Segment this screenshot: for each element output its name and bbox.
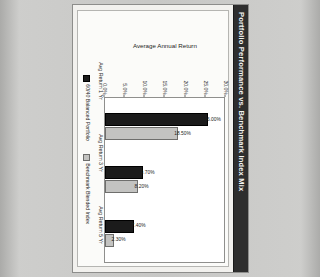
legend-label: Benchmark Blended Index bbox=[84, 163, 89, 224]
category-axis-row: Avg Return 1 YrAvg Return 3 YrAvg Return… bbox=[93, 14, 104, 263]
bar[interactable] bbox=[105, 127, 178, 140]
bar-value-label: 8.20% bbox=[135, 184, 149, 189]
bar-value-label: 9.70% bbox=[140, 170, 154, 175]
y-axis-tick-label: 0.0% bbox=[101, 83, 106, 95]
y-axis-title: Average Annual Return bbox=[104, 14, 186, 78]
bar[interactable] bbox=[105, 166, 143, 179]
bar-group: 9.70%8.20% bbox=[105, 153, 186, 206]
bar-wrapper: 2.30% bbox=[105, 234, 186, 247]
legend-swatch-icon bbox=[83, 75, 90, 82]
bar-wrapper: 7.40% bbox=[105, 220, 186, 233]
legend-item[interactable]: 60/40 Balanced Portfolio bbox=[83, 75, 90, 141]
plot-area: 26.00%18.50%9.70%8.20%7.40%2.30% bbox=[104, 97, 186, 263]
bar-value-label: 2.30% bbox=[111, 238, 125, 243]
legend-label: 60/40 Balanced Portfolio bbox=[84, 84, 89, 141]
category-axis-spacer-ticks bbox=[93, 24, 104, 43]
y-axis-tick-label: 15.0% bbox=[161, 80, 166, 94]
bar-wrapper: 8.20% bbox=[105, 180, 186, 193]
bar-wrapper: 26.00% bbox=[105, 113, 186, 126]
slide: Portfolio Performance vs. Benchmark Inde… bbox=[72, 4, 186, 273]
chart-card: Average Annual Return 30.0%25.0%20.0%15.… bbox=[77, 10, 186, 267]
y-axis-title-label: Average Annual Return bbox=[132, 43, 185, 49]
category-axis-labels: Avg Return 1 YrAvg Return 3 YrAvg Return… bbox=[93, 43, 104, 263]
bar-group: 26.00%18.50% bbox=[105, 100, 186, 153]
bar-wrapper: 9.70% bbox=[105, 166, 186, 179]
y-axis-tick-label: 20.0% bbox=[182, 80, 185, 94]
bar[interactable] bbox=[105, 180, 138, 193]
chart-legend: 60/40 Balanced PortfolioBenchmark Blende… bbox=[81, 14, 93, 263]
category-label: Avg Return 3 Yr bbox=[93, 117, 103, 189]
bar-wrapper: 18.50% bbox=[105, 127, 186, 140]
bar-groups: 26.00%18.50%9.70%8.20%7.40%2.30% bbox=[105, 98, 186, 262]
category-label: Avg Return 5 Yr bbox=[93, 189, 103, 261]
legend-swatch-icon bbox=[83, 154, 90, 161]
scan-background: Portfolio Performance vs. Benchmark Inde… bbox=[0, 0, 185, 277]
y-axis-tick-label: 5.0% bbox=[121, 83, 126, 95]
category-label: Avg Return 1 Yr bbox=[93, 45, 103, 117]
bar-value-label: 7.40% bbox=[131, 224, 145, 229]
slide-rotation-wrapper: Portfolio Performance vs. Benchmark Inde… bbox=[72, 4, 186, 273]
bar[interactable] bbox=[105, 220, 134, 233]
plot-row: Average Annual Return 30.0%25.0%20.0%15.… bbox=[104, 14, 186, 263]
slide-body: Average Annual Return 30.0%25.0%20.0%15.… bbox=[73, 5, 186, 272]
category-axis-spacer-title bbox=[93, 14, 104, 24]
chart-inner: Average Annual Return 30.0%25.0%20.0%15.… bbox=[81, 14, 186, 263]
y-axis-ticks: 30.0%25.0%20.0%15.0%10.0%5.0%0.0% bbox=[104, 78, 186, 97]
bar-group: 7.40%2.30% bbox=[105, 207, 186, 260]
legend-item[interactable]: Benchmark Blended Index bbox=[83, 154, 90, 224]
bar-value-label: 18.50% bbox=[174, 131, 185, 136]
bar[interactable] bbox=[105, 113, 186, 126]
y-axis-tick-label: 10.0% bbox=[141, 80, 146, 94]
